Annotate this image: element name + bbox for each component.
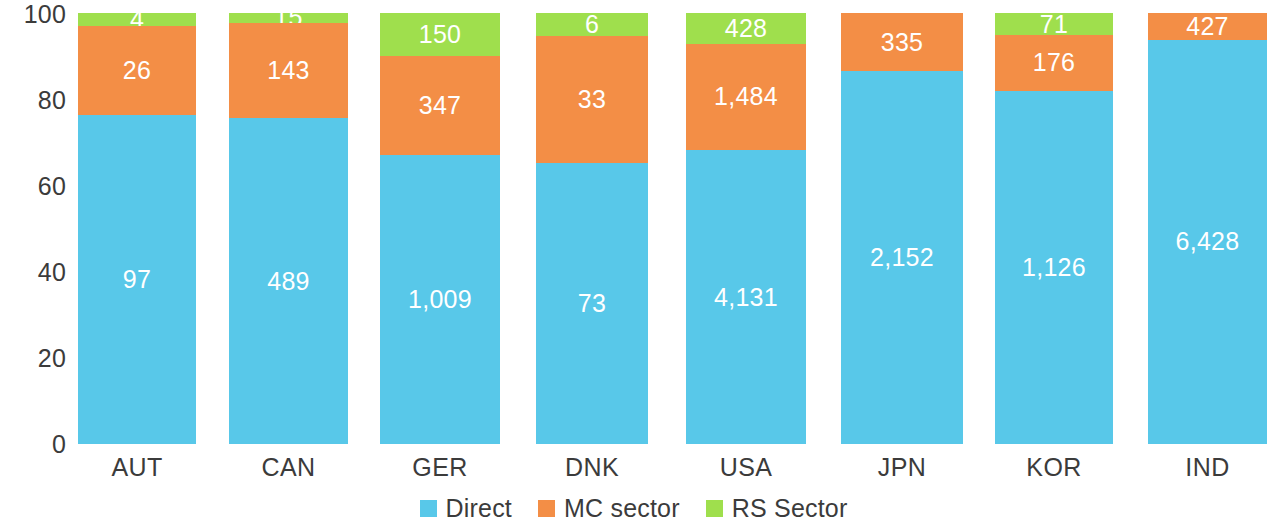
bar-segment-rs-sector[interactable]: 150 <box>380 13 500 56</box>
bar-segment-value-label: 73 <box>578 291 606 316</box>
square-swatch-icon <box>706 500 723 517</box>
bar-segment-direct[interactable]: 6,428 <box>1148 40 1267 444</box>
x-axis-category-label: CAN <box>229 455 348 480</box>
bar-segment-value-label: 33 <box>578 87 606 112</box>
x-axis-category-label: USA <box>686 455 806 480</box>
x-axis-category-label: AUT <box>78 455 196 480</box>
stacked-bar[interactable]: 42697 <box>78 13 196 444</box>
bar-segment-value-label: 6,428 <box>1175 229 1239 254</box>
bar-segment-value-label: 428 <box>725 16 768 41</box>
chart-legend: DirectMC sectorRS Sector <box>0 496 1267 521</box>
bar-segment-mc-sector[interactable]: 33 <box>536 36 648 163</box>
bar-segment-value-label: 335 <box>881 30 924 55</box>
bar-segment-mc-sector[interactable]: 143 <box>229 23 348 118</box>
bar-segment-value-label: 15 <box>274 13 302 23</box>
stacked-bar[interactable]: 711761,126 <box>995 13 1113 444</box>
bar-segment-direct[interactable]: 2,152 <box>841 71 963 444</box>
stacked-bar[interactable]: 4276,428 <box>1148 13 1267 444</box>
stacked-bar[interactable]: 63373 <box>536 13 648 444</box>
x-axis-category-label: KOR <box>995 455 1113 480</box>
bar-segment-mc-sector[interactable]: 176 <box>995 35 1113 90</box>
bar-segment-mc-sector[interactable]: 335 <box>841 13 963 71</box>
square-swatch-icon <box>420 500 437 517</box>
bar-segment-rs-sector[interactable]: 4 <box>78 13 196 26</box>
bar-segment-value-label: 4,131 <box>714 285 778 310</box>
legend-item-label: Direct <box>446 496 512 521</box>
legend-item[interactable]: RS Sector <box>706 496 848 521</box>
bar-group: 3352,152 <box>841 0 963 524</box>
bar-segment-rs-sector[interactable]: 428 <box>686 13 806 44</box>
bar-segment-value-label: 150 <box>419 22 462 47</box>
bar-segment-value-label: 347 <box>419 93 462 118</box>
square-swatch-icon <box>538 500 555 517</box>
bar-segment-value-label: 489 <box>267 269 310 294</box>
bar-group: 63373 <box>536 0 648 524</box>
bar-segment-value-label: 1,126 <box>1022 255 1086 280</box>
bar-segment-mc-sector[interactable]: 427 <box>1148 13 1267 40</box>
x-axis-category-label: DNK <box>536 455 648 480</box>
bar-group: 1503471,009 <box>380 0 500 524</box>
stacked-bar[interactable]: 1503471,009 <box>380 13 500 444</box>
x-axis-category-label: GER <box>380 455 500 480</box>
bar-group: 42697 <box>78 0 196 524</box>
bar-group: 4281,4844,131 <box>686 0 806 524</box>
legend-item-label: MC sector <box>564 496 680 521</box>
bar-segment-direct[interactable]: 1,009 <box>380 155 500 444</box>
bar-segment-direct[interactable]: 73 <box>536 163 648 444</box>
bar-segment-rs-sector[interactable]: 15 <box>229 13 348 23</box>
legend-item[interactable]: Direct <box>420 496 512 521</box>
legend-item-label: RS Sector <box>732 496 848 521</box>
bar-segment-value-label: 143 <box>267 58 310 83</box>
bar-segment-value-label: 97 <box>123 267 151 292</box>
bar-segment-rs-sector[interactable]: 71 <box>995 13 1113 35</box>
bar-segment-direct[interactable]: 4,131 <box>686 150 806 445</box>
bar-segment-value-label: 26 <box>123 58 151 83</box>
bar-segment-direct[interactable]: 97 <box>78 115 196 444</box>
stacked-bar-chart: 020406080100 42697AUT15143489CAN1503471,… <box>0 0 1267 524</box>
stacked-bar[interactable]: 15143489 <box>229 13 348 444</box>
bar-segment-rs-sector[interactable]: 6 <box>536 13 648 36</box>
bar-segment-direct[interactable]: 1,126 <box>995 91 1113 444</box>
bar-segment-value-label: 2,152 <box>870 245 934 270</box>
stacked-bar[interactable]: 4281,4844,131 <box>686 13 806 444</box>
bar-group: 4276,428 <box>1148 0 1267 524</box>
bar-segment-mc-sector[interactable]: 1,484 <box>686 44 806 150</box>
stacked-bar[interactable]: 3352,152 <box>841 13 963 444</box>
bar-segment-mc-sector[interactable]: 347 <box>380 56 500 155</box>
bar-segment-value-label: 4 <box>130 13 144 26</box>
bar-group: 15143489 <box>229 0 348 524</box>
bar-segment-value-label: 176 <box>1033 50 1076 75</box>
bar-group: 711761,126 <box>995 0 1113 524</box>
x-axis-category-label: IND <box>1148 455 1267 480</box>
bar-segment-value-label: 1,484 <box>714 84 778 109</box>
bar-segment-mc-sector[interactable]: 26 <box>78 26 196 114</box>
bar-segment-direct[interactable]: 489 <box>229 118 348 444</box>
bar-segment-value-label: 1,009 <box>408 287 472 312</box>
plot-area: 42697AUT15143489CAN1503471,009GER63373DN… <box>0 0 1267 524</box>
bar-segment-value-label: 71 <box>1040 13 1068 35</box>
bar-segment-value-label: 427 <box>1186 14 1229 39</box>
bar-segment-value-label: 6 <box>585 13 599 36</box>
x-axis-category-label: JPN <box>841 455 963 480</box>
legend-item[interactable]: MC sector <box>538 496 680 521</box>
